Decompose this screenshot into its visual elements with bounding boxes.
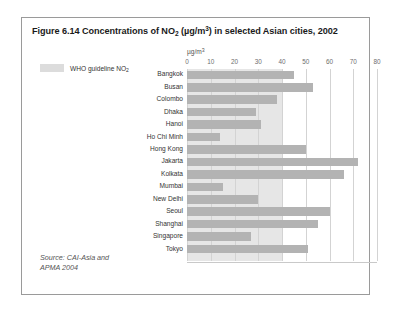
bar-mumbai bbox=[187, 183, 223, 192]
bar-row: Bangkok bbox=[187, 71, 377, 80]
bar-row: Busan bbox=[187, 83, 377, 92]
figure-title-superscript: 3 bbox=[205, 25, 209, 32]
axis-unit-label: µg/m3 bbox=[187, 48, 205, 55]
category-label-ho-chi-minh: Ho Chi Minh bbox=[147, 133, 183, 140]
bar-jakarta bbox=[187, 158, 358, 167]
bar-row: Tokyo bbox=[187, 245, 377, 254]
category-label-jakarta: Jakarta bbox=[161, 157, 183, 164]
x-axis-tick-50: 50 bbox=[302, 58, 309, 65]
bar-row: Ho Chi Minh bbox=[187, 133, 377, 142]
x-axis-tick-80: 80 bbox=[373, 58, 380, 65]
category-label-hanoi: Hanoi bbox=[166, 120, 183, 127]
bar-singapore bbox=[187, 232, 251, 241]
x-axis-tick-40: 40 bbox=[278, 58, 285, 65]
plot-wrapper: 01020304050607080 BangkokBusanColomboDha… bbox=[22, 58, 371, 263]
x-axis-tick-20: 20 bbox=[231, 58, 238, 65]
category-label-shanghai: Shanghai bbox=[155, 220, 183, 227]
category-label-hong-kong: Hong Kong bbox=[150, 145, 183, 152]
category-label-colombo: Colombo bbox=[157, 95, 183, 102]
figure-title-suffix: ) in selected Asian cities, 2002 bbox=[209, 26, 338, 36]
bar-seoul bbox=[187, 207, 330, 216]
x-axis-tick-60: 60 bbox=[326, 58, 333, 65]
figure-title-subscript: 2 bbox=[175, 30, 179, 37]
figure-title-mid: (µg/m bbox=[179, 26, 206, 36]
bar-row: Seoul bbox=[187, 207, 377, 216]
axis-unit-superscript: 3 bbox=[202, 47, 205, 53]
bar-row: Dhaka bbox=[187, 108, 377, 117]
bar-hong-kong bbox=[187, 145, 306, 154]
bar-tokyo bbox=[187, 245, 308, 254]
category-label-dhaka: Dhaka bbox=[164, 108, 183, 115]
bar-dhaka bbox=[187, 108, 256, 117]
bar-row: Singapore bbox=[187, 232, 377, 241]
bar-ho-chi-minh bbox=[187, 133, 220, 142]
bar-row: Hanoi bbox=[187, 120, 377, 129]
x-axis-tick-10: 10 bbox=[207, 58, 214, 65]
bar-row: Shanghai bbox=[187, 220, 377, 229]
bar-kolkata bbox=[187, 170, 344, 179]
bar-row: New Delhi bbox=[187, 195, 377, 204]
bar-row: Kolkata bbox=[187, 170, 377, 179]
x-axis-tick-0: 0 bbox=[185, 58, 189, 65]
source-line-2: APMA 2004 bbox=[40, 263, 160, 273]
bar-row: Hong Kong bbox=[187, 145, 377, 154]
source-line-1: Source: CAI-Asia and bbox=[40, 253, 160, 263]
x-axis-tick-30: 30 bbox=[255, 58, 262, 65]
bar-hanoi bbox=[187, 120, 261, 129]
category-label-bangkok: Bangkok bbox=[157, 70, 183, 77]
category-label-kolkata: Kolkata bbox=[161, 170, 183, 177]
category-label-new-delhi: New Delhi bbox=[153, 195, 183, 202]
bar-new-delhi bbox=[187, 195, 258, 204]
category-label-tokyo: Tokyo bbox=[166, 245, 183, 252]
x-axis-tick-70: 70 bbox=[350, 58, 357, 65]
bar-row: Colombo bbox=[187, 95, 377, 104]
bar-colombo bbox=[187, 95, 277, 104]
bar-row: Mumbai bbox=[187, 183, 377, 192]
category-label-singapore: Singapore bbox=[153, 232, 183, 239]
source-note: Source: CAI-Asia and APMA 2004 bbox=[40, 253, 160, 274]
x-axis-line bbox=[187, 262, 377, 263]
figure-title-prefix: Figure 6.14 Concentrations of NO bbox=[32, 26, 175, 36]
category-label-seoul: Seoul bbox=[166, 207, 183, 214]
axis-unit-prefix: µg/m bbox=[187, 48, 202, 55]
gridline-80 bbox=[377, 69, 378, 261]
figure-card: Figure 6.14 Concentrations of NO2 (µg/m3… bbox=[21, 17, 370, 295]
figure-title: Figure 6.14 Concentrations of NO2 (µg/m3… bbox=[32, 26, 362, 36]
bar-bangkok bbox=[187, 71, 294, 80]
bar-row: Jakarta bbox=[187, 158, 377, 167]
plot-area: BangkokBusanColomboDhakaHanoiHo Chi Minh… bbox=[187, 69, 377, 261]
bar-shanghai bbox=[187, 220, 318, 229]
bar-busan bbox=[187, 83, 313, 92]
x-axis-tick-labels: 01020304050607080 bbox=[187, 58, 377, 68]
category-label-mumbai: Mumbai bbox=[160, 182, 183, 189]
category-label-busan: Busan bbox=[164, 83, 183, 90]
